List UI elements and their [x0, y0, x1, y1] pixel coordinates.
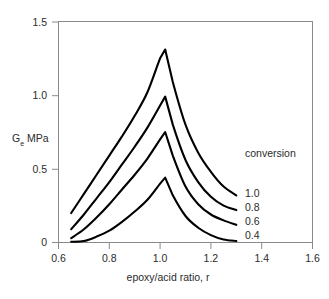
- y-axis-title-main: G: [12, 132, 20, 144]
- y-axis-title-unit: MPa: [24, 132, 49, 144]
- x-tick-label: 0.8: [102, 252, 117, 264]
- y-tick-label: 0: [41, 236, 47, 248]
- y-tick-label: 1.5: [32, 16, 47, 28]
- chart-figure: 1.5 1.0 0.5 0 Ge MPa 0.6 0.8 1.0 1.2 1.4: [0, 0, 329, 299]
- legend-entry-4: 0.4: [245, 229, 260, 241]
- legend-entry-1: 1.0: [245, 187, 260, 199]
- x-axis-ticks: [59, 243, 313, 250]
- legend: conversion 1.0 0.8 0.6 0.4: [245, 147, 296, 241]
- series-line-0.4: [71, 178, 236, 242]
- line-chart: 1.5 1.0 0.5 0 Ge MPa 0.6 0.8 1.0 1.2 1.4: [0, 0, 329, 299]
- y-axis-title: Ge MPa: [12, 132, 49, 147]
- y-tick-label: 0.5: [32, 163, 47, 175]
- x-tick-label: 1.4: [254, 252, 269, 264]
- series-line-0.6: [71, 132, 236, 238]
- series-line-1.0: [71, 49, 236, 213]
- x-axis-title: epoxy/acid ratio, r: [127, 271, 210, 283]
- data-series-group: [71, 49, 236, 241]
- x-tick-label: 0.6: [51, 252, 66, 264]
- x-tick-label: 1.0: [153, 252, 168, 264]
- legend-title: conversion: [245, 147, 296, 159]
- plot-frame: [59, 22, 313, 243]
- series-line-0.8: [71, 97, 236, 230]
- y-tick-label: 1.0: [32, 89, 47, 101]
- legend-entry-3: 0.6: [245, 215, 260, 227]
- legend-entry-2: 0.8: [245, 201, 260, 213]
- x-axis-tick-labels: 0.6 0.8 1.0 1.2 1.4 1.6: [51, 252, 320, 264]
- svg-text:Ge MPa: Ge MPa: [12, 132, 49, 147]
- y-axis-ticks: [52, 22, 59, 243]
- x-tick-label: 1.6: [305, 252, 320, 264]
- x-tick-label: 1.2: [204, 252, 219, 264]
